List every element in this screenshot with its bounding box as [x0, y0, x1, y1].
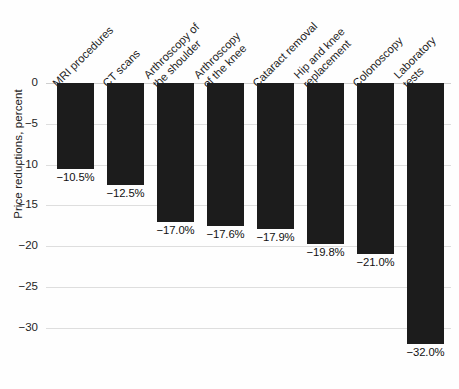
bar	[257, 83, 294, 229]
bar-value-label: −10.5%	[50, 171, 102, 183]
bar	[157, 83, 194, 222]
y-axis-tick-label: −30	[8, 321, 38, 333]
bar	[357, 83, 394, 254]
gridline	[46, 328, 451, 329]
bar-value-label: −32.0%	[400, 346, 452, 358]
bar-value-label: −17.6%	[200, 228, 252, 240]
bar-value-label: −17.0%	[150, 224, 202, 236]
bar-value-label: −19.8%	[300, 246, 352, 258]
plot-area	[46, 83, 451, 366]
gridline	[46, 287, 451, 288]
bar-chart: Price reductions, percent 0−5−10−15−20−2…	[0, 0, 459, 389]
bar	[57, 83, 94, 169]
y-axis-tick-label: −25	[8, 280, 38, 292]
bar	[407, 83, 444, 344]
bar-value-label: −12.5%	[100, 187, 152, 199]
y-axis-title: Price reductions, percent	[12, 44, 24, 264]
bar	[107, 83, 144, 185]
bar-value-label: −17.9%	[250, 231, 302, 243]
x-axis-category-label: Colonoscopy	[350, 34, 405, 89]
bar	[207, 83, 244, 226]
bar-value-label: −21.0%	[350, 256, 402, 268]
bar	[307, 83, 344, 244]
